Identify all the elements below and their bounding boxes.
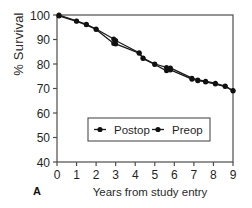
y-tick-label: 60	[37, 107, 51, 121]
data-point-marker	[152, 62, 157, 67]
y-tick-label: 40	[37, 156, 51, 170]
data-point-marker	[113, 41, 118, 46]
legend-layer: PostopPreop	[88, 118, 210, 141]
x-tick-label: 7	[191, 168, 198, 182]
y-tick-label: 100	[30, 9, 50, 23]
x-tick-label: 2	[93, 168, 100, 182]
y-tick-label: 50	[37, 131, 51, 145]
data-point-marker	[223, 84, 228, 89]
legend-entry-postop-label: Postop	[114, 124, 150, 136]
x-tick-label: 4	[132, 168, 139, 182]
y-tick-label: 90	[37, 33, 51, 47]
data-point-marker	[56, 13, 61, 18]
data-point-marker	[74, 19, 79, 24]
series-layer	[56, 13, 235, 94]
data-point-marker	[141, 56, 146, 61]
panel-letter: A	[33, 185, 41, 197]
data-point-marker	[195, 78, 200, 83]
data-point-marker	[231, 88, 236, 93]
data-point-marker	[213, 82, 218, 87]
axis-layer: 4050607080901000123456789	[30, 9, 237, 183]
x-tick-label: 3	[112, 168, 119, 182]
legend-entry-postop-swatch-marker	[97, 127, 102, 132]
data-point-marker	[168, 67, 173, 72]
y-tick-label: 70	[37, 82, 51, 96]
legend-entry-preop-label: Preop	[172, 124, 203, 136]
y-tick-label: 80	[37, 58, 51, 72]
survival-curve-figure: % Survival 4050607080901000123456789 Pos…	[0, 0, 252, 208]
data-point-marker	[203, 79, 208, 84]
data-point-marker	[84, 22, 89, 27]
x-tick-label: 9	[230, 168, 237, 182]
data-point-marker	[189, 77, 194, 82]
x-tick-label: 8	[210, 168, 217, 182]
x-tick-label: 5	[151, 168, 158, 182]
x-tick-label: 6	[171, 168, 178, 182]
plot-canvas: 4050607080901000123456789 PostopPreop	[0, 0, 252, 208]
data-point-marker	[94, 27, 99, 32]
x-tick-label: 1	[73, 168, 80, 182]
x-tick-label: 0	[54, 168, 61, 182]
legend-entry-preop-swatch-marker	[155, 127, 160, 132]
data-point-marker	[137, 51, 142, 56]
x-axis-label: Years from study entry	[60, 186, 240, 198]
